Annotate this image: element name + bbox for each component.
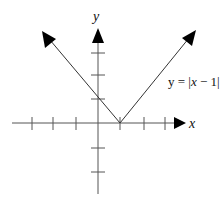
left-branch-arrow-icon [42, 31, 56, 48]
function-label: y = |x − 1| [168, 74, 220, 89]
y-axis: y [91, 9, 105, 194]
x-axis: x [12, 116, 196, 131]
function-label-suffix: − 1| [197, 74, 220, 89]
x-axis-label: x [188, 116, 196, 131]
x-axis-arrow-icon [174, 117, 186, 129]
function-label-prefix: y = | [168, 74, 191, 89]
graph-canvas: x y y = |x − 1| [0, 0, 224, 203]
left-branch [50, 40, 120, 123]
y-axis-arrow-icon [92, 28, 104, 43]
y-axis-label: y [91, 9, 100, 24]
